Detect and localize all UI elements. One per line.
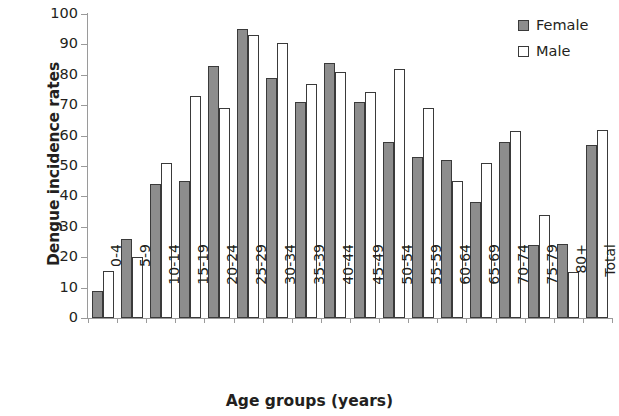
y-axis-tick (81, 105, 87, 106)
legend-item-male: Male (518, 38, 588, 64)
x-axis-tick-label: 60-64 (457, 244, 473, 324)
x-axis-tick-label: 10-14 (166, 244, 182, 324)
x-axis-tick-label: 35-39 (311, 244, 327, 324)
x-axis-tick-label: 0-4 (108, 244, 124, 324)
y-axis-tick (81, 288, 87, 289)
y-axis-tick-label: 0 (34, 309, 78, 325)
y-axis-tick-label: 60 (34, 127, 78, 143)
x-axis-tick-label: 50-54 (399, 244, 415, 324)
y-axis-tick-label: 30 (34, 218, 78, 234)
x-axis-title: Age groups (years) (0, 392, 619, 410)
y-axis-tick-label: 10 (34, 279, 78, 295)
chart-legend: FemaleMale (518, 12, 588, 64)
x-axis-tick-label: 40-44 (340, 244, 356, 324)
x-axis-tick-label: 5-9 (137, 244, 153, 324)
y-axis-tick-label: 80 (34, 66, 78, 82)
x-axis-tick-label: 45-49 (370, 244, 386, 324)
x-axis-tick-label: 70-74 (515, 244, 531, 324)
y-axis-tick (81, 14, 87, 15)
x-axis-tick-label: 30-34 (282, 244, 298, 324)
x-axis-tick-label: 15-19 (195, 244, 211, 324)
y-axis-tick-label: 70 (34, 96, 78, 112)
legend-label: Male (536, 43, 570, 59)
x-axis-tick-label: 75-79 (544, 244, 560, 324)
y-axis-tick (81, 136, 87, 137)
x-axis-tick-label: Total (602, 244, 618, 324)
dengue-incidence-bar-chart: Dengue incidence rates 01020304050607080… (0, 0, 619, 416)
x-axis-tick-label: 20-24 (224, 244, 240, 324)
y-axis-tick (81, 44, 87, 45)
y-axis-tick-label: 20 (34, 248, 78, 264)
legend-item-female: Female (518, 12, 588, 38)
x-axis-tick-label: 55-59 (428, 244, 444, 324)
y-axis-tick-label: 40 (34, 187, 78, 203)
y-axis-tick (81, 257, 87, 258)
y-axis-tick-label: 90 (34, 35, 78, 51)
legend-label: Female (536, 17, 588, 33)
y-axis-tick (81, 196, 87, 197)
x-axis-tick-label: 80+ (573, 244, 589, 324)
x-axis-tick-label: 25-29 (253, 244, 269, 324)
y-axis-tick (81, 318, 87, 319)
legend-swatch-icon (518, 20, 529, 31)
y-axis-tick-label: 50 (34, 157, 78, 173)
y-axis-tick (81, 227, 87, 228)
x-axis-tick (88, 318, 89, 323)
legend-swatch-icon (518, 46, 529, 57)
bar-female-0-4 (92, 291, 103, 318)
x-axis-tick-label: 65-69 (486, 244, 502, 324)
y-axis-tick-label: 100 (34, 5, 78, 21)
y-axis-tick (81, 75, 87, 76)
y-axis-tick (81, 166, 87, 167)
